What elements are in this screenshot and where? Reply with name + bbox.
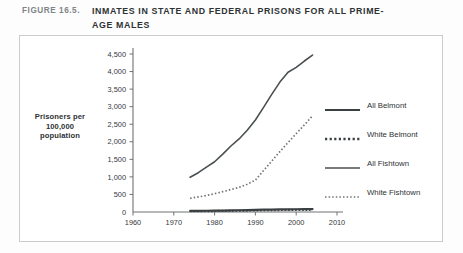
legend-item-all-belmont[interactable]: All Belmont xyxy=(325,100,450,111)
legend-item-all-fishtown[interactable]: All Fishtown xyxy=(325,158,450,169)
legend-label: All Belmont xyxy=(367,101,406,110)
legend-item-white-belmont[interactable]: White Belmont xyxy=(325,129,450,140)
y-tick-label: 2,000 xyxy=(108,137,127,146)
legend-swatch-icon xyxy=(325,159,360,169)
legend-label: All Fishtown xyxy=(367,159,409,168)
legend-label: White Belmont xyxy=(367,130,418,139)
y-tick-label: 3,500 xyxy=(108,85,127,94)
y-tick-label: 1,000 xyxy=(108,173,127,182)
y-tick-label: 4,000 xyxy=(108,67,127,76)
legend-swatch-icon xyxy=(325,188,360,198)
series-line-white-fishtown xyxy=(190,116,312,199)
legend-label: White Fishtown xyxy=(367,188,420,197)
legend-swatch-icon xyxy=(325,130,360,140)
x-tick-label: 1960 xyxy=(125,218,141,227)
x-tick-label: 2000 xyxy=(288,218,304,227)
chart-legend: All BelmontWhite BelmontAll FishtownWhit… xyxy=(325,100,450,198)
series-line-all-belmont xyxy=(190,209,312,211)
y-tick-label: 3,000 xyxy=(108,102,127,111)
y-tick-label: 1,500 xyxy=(108,155,127,164)
x-tick-label: 1980 xyxy=(206,218,222,227)
x-tick-label: 1970 xyxy=(166,218,182,227)
y-tick-label: 500 xyxy=(114,190,126,199)
y-tick-label: 4,500 xyxy=(108,50,127,59)
y-tick-label: 2,500 xyxy=(108,120,127,129)
legend-swatch-icon xyxy=(325,101,360,111)
y-tick-label: 0 xyxy=(122,208,126,217)
figure-page: FIGURE 16.5. INMATES IN STATE AND FEDERA… xyxy=(0,0,463,253)
x-tick-label: 2010 xyxy=(329,218,345,227)
legend-item-white-fishtown[interactable]: White Fishtown xyxy=(325,187,450,198)
x-tick-label: 1990 xyxy=(247,218,263,227)
series-line-all-fishtown xyxy=(190,55,312,177)
